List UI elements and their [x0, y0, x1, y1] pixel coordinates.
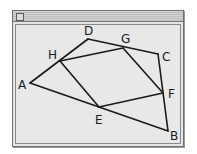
point-label-G: G	[121, 32, 130, 46]
point-label-A: A	[18, 78, 27, 92]
segment-FE	[99, 93, 163, 107]
point-label-E: E	[95, 113, 103, 127]
point-label-H: H	[48, 48, 57, 62]
point-label-B: B	[170, 129, 178, 143]
segment-AD	[30, 39, 88, 83]
segment-GF	[123, 48, 163, 93]
point-label-F: F	[168, 87, 175, 101]
quadrilateral-diagram: ABCDEFGH	[0, 0, 197, 154]
point-label-D: D	[84, 24, 93, 38]
segment-HG	[60, 48, 123, 61]
point-label-C: C	[162, 50, 170, 64]
